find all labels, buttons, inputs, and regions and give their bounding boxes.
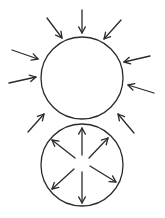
outward-arrow xyxy=(79,172,86,203)
arrow-shaft xyxy=(52,140,75,158)
outward-arrow xyxy=(79,128,86,155)
outward-arrow xyxy=(52,169,74,189)
arrow-shaft xyxy=(89,138,108,158)
inward-arrow xyxy=(104,20,121,39)
arrow-shaft xyxy=(104,20,121,39)
outward-arrow xyxy=(90,166,116,182)
pressure-diagram xyxy=(0,0,165,218)
upper-circle xyxy=(41,37,123,119)
arrow-shaft xyxy=(118,114,134,133)
inward-arrow xyxy=(12,50,38,60)
inward-arrow xyxy=(79,10,86,33)
lower-circle-group xyxy=(41,124,123,206)
arrow-shaft xyxy=(52,169,74,189)
inward-arrow xyxy=(124,56,150,64)
inward-arrow xyxy=(128,84,154,93)
inward-arrow xyxy=(47,18,62,38)
outward-arrow xyxy=(89,138,108,158)
inward-arrow xyxy=(9,75,36,83)
arrow-shaft xyxy=(28,114,44,132)
upper-circle-group xyxy=(9,10,154,133)
inward-arrow xyxy=(118,114,134,133)
outward-arrow xyxy=(52,140,75,158)
arrow-shaft xyxy=(47,18,62,38)
inward-arrows xyxy=(9,10,154,133)
arrow-shaft xyxy=(90,166,116,182)
inward-arrow xyxy=(28,114,44,132)
outward-arrows xyxy=(52,128,116,203)
